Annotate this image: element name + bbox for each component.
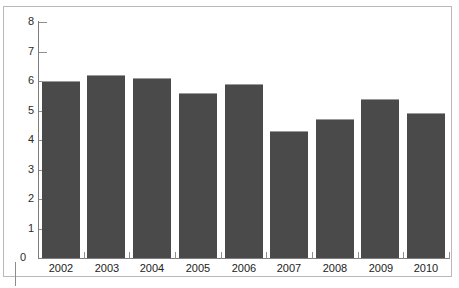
bar — [225, 84, 263, 258]
y-axis-tick — [39, 52, 47, 53]
x-axis-label: 2005 — [175, 262, 221, 274]
y-axis-label-wrap: 5 — [8, 105, 34, 116]
x-axis-label: 2009 — [358, 262, 404, 274]
x-axis-label: 2003 — [84, 262, 130, 274]
y-axis-label: 2 — [12, 193, 34, 204]
y-axis-label: 8 — [12, 16, 34, 27]
x-axis-line — [38, 258, 449, 259]
x-axis-label: 2007 — [266, 262, 312, 274]
x-axis-tick — [84, 252, 85, 259]
y-axis-label: 1 — [12, 223, 34, 234]
y-axis-label-wrap: 1 — [8, 223, 34, 234]
x-axis-tick — [175, 252, 176, 259]
x-axis-tick — [449, 252, 450, 259]
x-axis-label: 2010 — [403, 262, 449, 274]
y-axis-label-zero: 0 — [12, 252, 26, 263]
y-axis-label: 4 — [12, 134, 34, 145]
bar — [407, 113, 445, 258]
y-axis-label: 6 — [12, 75, 34, 86]
y-axis-label-wrap: 8 — [8, 16, 34, 27]
plot-area: 12345678 0 20022003200420052006200720082… — [0, 0, 459, 288]
y-axis-label-wrap: 7 — [8, 46, 34, 57]
x-axis-label: 2006 — [221, 262, 267, 274]
x-axis-tick — [403, 252, 404, 259]
x-axis-tick — [312, 252, 313, 259]
chart-figure: 12345678 0 20022003200420052006200720082… — [0, 0, 459, 288]
bar — [316, 119, 354, 258]
x-axis-label: 2004 — [129, 262, 175, 274]
y-axis-label-wrap: 6 — [8, 75, 34, 86]
x-axis-tick — [266, 252, 267, 259]
x-axis-tick — [358, 252, 359, 259]
y-axis-label: 5 — [12, 105, 34, 116]
x-axis-label: 2008 — [312, 262, 358, 274]
x-axis-tick — [129, 252, 130, 259]
x-axis-tick — [221, 252, 222, 259]
bar — [87, 75, 125, 258]
y-axis-label: 3 — [12, 164, 34, 175]
bar — [270, 131, 308, 258]
x-axis-label: 2002 — [38, 262, 84, 274]
y-axis-label: 7 — [12, 46, 34, 57]
bar — [179, 93, 217, 258]
y-axis-label-wrap: 2 — [8, 193, 34, 204]
bar — [42, 81, 80, 258]
bar — [361, 99, 399, 258]
y-axis-tick — [39, 22, 47, 23]
y-axis-label-wrap: 4 — [8, 134, 34, 145]
bar — [133, 78, 171, 258]
y-axis-label-wrap: 3 — [8, 164, 34, 175]
